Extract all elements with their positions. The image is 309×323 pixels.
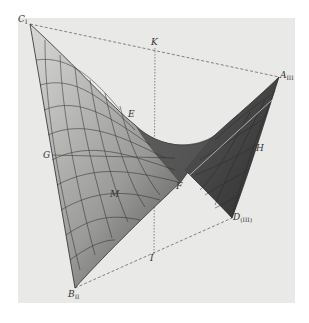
label-H: H: [256, 144, 264, 153]
label-K: K: [151, 38, 158, 47]
label-G: G: [43, 151, 50, 160]
label-F: F: [176, 182, 182, 191]
label-D: D(III): [233, 213, 252, 223]
label-B: BII: [68, 290, 79, 300]
label-M: M: [110, 190, 119, 199]
saddle-surface-diagram: [0, 0, 309, 323]
label-A: AIII: [280, 71, 294, 81]
label-I: I: [150, 254, 154, 263]
label-E: E: [128, 110, 135, 119]
label-C: CI: [18, 15, 27, 25]
